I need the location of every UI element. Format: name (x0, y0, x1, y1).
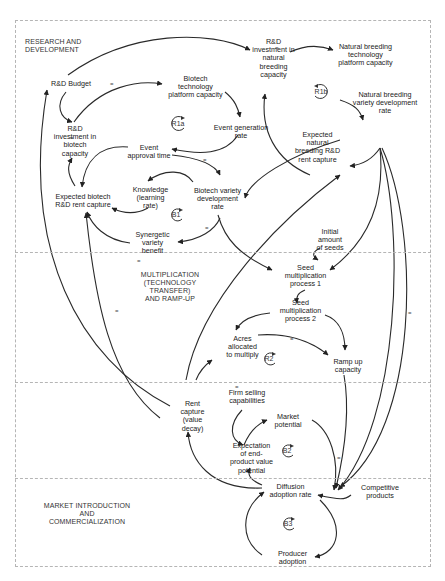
node-seed-multiplication-2[interactable]: Seed multiplication process 2 (273, 299, 328, 324)
node-event-generation[interactable]: Event generation rate (212, 124, 270, 140)
node-expectation-end-product[interactable]: Expectation of end- product value potent… (224, 442, 279, 475)
loop-b2-icon: B2 (277, 441, 297, 461)
node-seed-multiplication-1[interactable]: Seed multiplication process 1 (278, 264, 333, 289)
section-divider-1 (15, 252, 431, 253)
node-market-potential[interactable]: Market potential (268, 413, 308, 429)
loop-b1-icon: B1 (166, 205, 186, 225)
loop-r1a-icon: R1a (168, 114, 188, 134)
node-rd-investment-biotech[interactable]: R&D investment in biotech capacity (50, 125, 100, 158)
section-label-market: MARKET INTRODUCTION AND COMMERCIALIZATIO… (42, 502, 132, 526)
node-ramp-up[interactable]: Ramp up capacity (328, 358, 368, 374)
node-expected-natural[interactable]: Expected natural breeding R&D rent captu… (290, 131, 345, 164)
section-label-research: RESEARCH AND DEVELOPMENT (25, 38, 81, 54)
node-firm-selling[interactable]: Firm selling capabilities (222, 389, 272, 405)
node-rent-capture[interactable]: Rent capture (value decay) (175, 400, 210, 433)
loop-r2-icon: R2 (259, 349, 279, 369)
node-expected-biotech[interactable]: Expected biotech R&D rent capture (53, 193, 113, 209)
node-event-approval[interactable]: Event approval time (124, 144, 174, 160)
node-rd-budget[interactable]: R&D Budget (46, 80, 96, 88)
node-biotech-variety[interactable]: Biotech variety development rate (190, 187, 245, 212)
section-label-multiplication: MULTIPLICATION (TECHNOLOGY TRANSFER) AND… (135, 271, 205, 303)
section-divider-3 (15, 478, 431, 479)
section-divider-2 (15, 382, 431, 383)
node-natural-platform[interactable]: Natural breeding technology platform cap… (333, 43, 398, 68)
node-natural-variety[interactable]: Natural breeding variety development rat… (350, 91, 420, 116)
node-competitive-products[interactable]: Competitive products (355, 484, 405, 500)
loop-b3-icon: B3 (278, 514, 298, 534)
node-initial-seeds[interactable]: Initial amount of seeds (310, 228, 350, 253)
node-rd-investment-natural[interactable]: R&D investment in natural breeding capac… (246, 38, 301, 79)
node-diffusion-adoption[interactable]: Diffusion adoption rate (263, 483, 318, 499)
node-synergetic[interactable]: Synergetic variety benefit (130, 231, 175, 256)
node-biotech-platform[interactable]: Biotech technology platform capacity (163, 75, 228, 100)
loop-r1b-icon: R1b (311, 82, 331, 102)
node-producer-adoption[interactable]: Producer adoption (270, 550, 315, 566)
